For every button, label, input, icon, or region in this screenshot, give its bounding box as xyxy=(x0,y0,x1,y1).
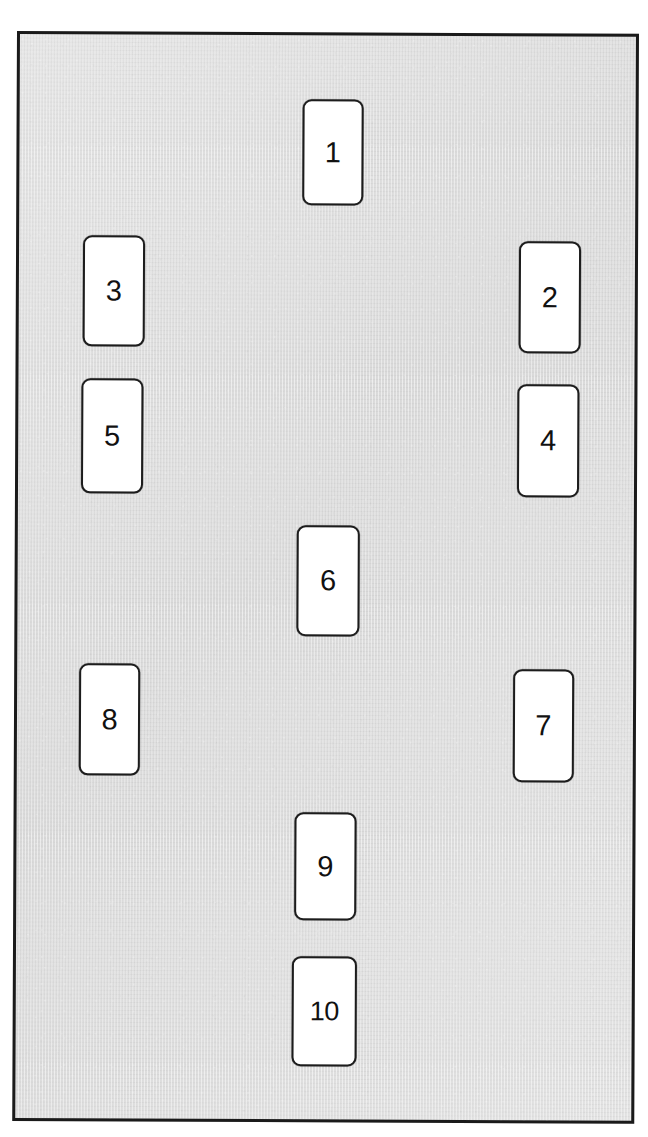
numbered-box-8[interactable]: 8 xyxy=(79,663,140,775)
numbered-box-7[interactable]: 7 xyxy=(513,669,574,782)
numbered-box-label: 4 xyxy=(540,426,556,455)
diagram-frame: 1 2 3 4 5 6 7 8 9 10 xyxy=(12,31,639,1124)
numbered-box-10[interactable]: 10 xyxy=(291,956,356,1066)
numbered-box-label: 10 xyxy=(310,998,339,1025)
numbered-box-label: 3 xyxy=(106,276,122,305)
numbered-box-label: 7 xyxy=(535,711,551,740)
numbered-box-4[interactable]: 4 xyxy=(517,384,579,497)
numbered-box-label: 9 xyxy=(317,852,333,881)
numbered-box-label: 1 xyxy=(325,138,341,167)
numbered-box-3[interactable]: 3 xyxy=(83,235,145,346)
numbered-box-label: 6 xyxy=(320,566,336,595)
numbered-box-label: 5 xyxy=(104,421,120,450)
page-canvas: 1 2 3 4 5 6 7 8 9 10 xyxy=(0,0,648,1137)
numbered-box-label: 2 xyxy=(542,283,558,312)
numbered-box-9[interactable]: 9 xyxy=(294,812,356,920)
numbered-box-5[interactable]: 5 xyxy=(81,378,144,493)
numbered-box-label: 8 xyxy=(101,705,117,734)
numbered-box-1[interactable]: 1 xyxy=(302,99,363,205)
numbered-box-6[interactable]: 6 xyxy=(296,525,359,636)
numbered-box-2[interactable]: 2 xyxy=(519,241,581,353)
